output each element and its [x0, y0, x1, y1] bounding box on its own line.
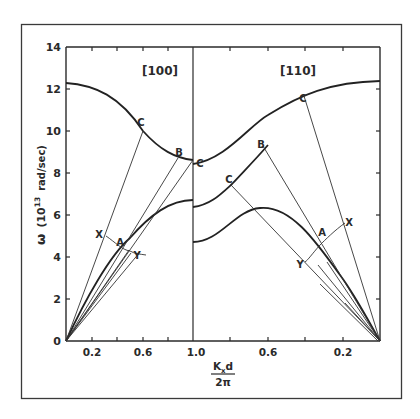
y-tick-12: 12: [46, 83, 61, 96]
y-label-unit: rad/sec): [36, 145, 47, 191]
curve-100-upper: [66, 83, 193, 160]
point-y-100: Y: [132, 250, 141, 261]
y-tick-8: 8: [53, 167, 61, 180]
point-x-100: X: [95, 229, 103, 240]
y-tick-2: 2: [53, 293, 61, 306]
dispersion-curves: [66, 81, 380, 341]
x-tick-0.2-right: 0.2: [334, 346, 353, 358]
x-label-denominator: 2π: [215, 376, 231, 388]
point-c-100-a: C: [137, 117, 144, 128]
point-a-100: A: [116, 237, 124, 248]
x-tick-0.6-left: 0.6: [134, 346, 153, 358]
point-b-100: B: [175, 147, 183, 158]
point-a-110: A: [318, 227, 326, 238]
curve-110-upper: [193, 81, 380, 164]
y-tick-14: 14: [46, 41, 62, 54]
y-tick-10: 10: [46, 125, 62, 138]
y-tick-0: 0: [53, 335, 61, 348]
y-label-exp: 13: [33, 197, 42, 207]
x-tick-0.2-left: 0.2: [83, 346, 102, 358]
y-tick-labels: 0 2 4 6 8 10 12 14: [46, 41, 62, 348]
y-tick-4: 4: [53, 251, 61, 264]
y-label-open: (10: [35, 207, 48, 228]
phonon-dispersion-figure: 0 2 4 6 8 10 12 14 0.2 0.6 1.0 0.6 0.2 K…: [0, 0, 420, 419]
svg-text:Kxd: Kxd: [213, 360, 233, 375]
point-x-110: X: [345, 217, 353, 228]
point-c-110-a: C: [225, 174, 232, 185]
x-tick-labels: 0.2 0.6 1.0 0.6 0.2: [83, 346, 353, 358]
panel-label-100: [100]: [142, 64, 178, 78]
curve-100-lower: [66, 200, 193, 341]
y-label-omega: ω: [33, 234, 48, 245]
y-tick-6: 6: [53, 209, 61, 222]
x-label-d: d: [226, 360, 234, 372]
construction-lines: [66, 96, 380, 341]
x-tick-0.6-right: 0.6: [259, 346, 278, 358]
y-ticks: [66, 89, 380, 299]
point-c-110-b: C: [299, 93, 306, 104]
svg-text:ω(1013rad/sec): ω(1013rad/sec): [33, 145, 48, 245]
outer-frame: [22, 25, 402, 399]
y-axis-label: ω(1013rad/sec): [33, 145, 48, 245]
point-y-110: Y: [295, 259, 304, 270]
x-ticks: [92, 47, 343, 341]
x-axis-label: Kxd 2π: [211, 360, 235, 388]
panel-label-110: [110]: [280, 64, 316, 78]
point-b-110: B: [257, 139, 265, 150]
point-c-100-b: C: [196, 158, 203, 169]
x-tick-1.0: 1.0: [187, 346, 206, 358]
